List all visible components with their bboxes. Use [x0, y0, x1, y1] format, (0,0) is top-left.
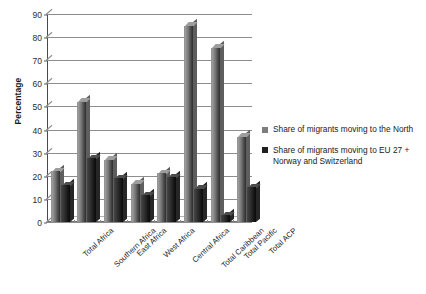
y-axis-title: Percentage [13, 61, 23, 141]
x-axis-tick-mark [180, 220, 181, 223]
bar[interactable] [157, 173, 166, 222]
bar[interactable] [87, 158, 96, 222]
x-axis-tick-mark [47, 220, 48, 223]
bar-front-face [104, 160, 113, 222]
x-axis-tick-mark [100, 220, 101, 223]
x-axis-tick-mark [154, 220, 155, 223]
bar-front-face [211, 48, 220, 222]
bar[interactable] [61, 185, 70, 222]
bar[interactable] [114, 178, 123, 222]
y-axis-tick-label: 60 [33, 79, 42, 89]
bar-chart: Percentage 0102030405060708090 Total Afr… [0, 0, 426, 294]
y-axis-tick-label: 0 [37, 218, 42, 228]
plot-area: 0102030405060708090 [47, 14, 260, 222]
x-axis-tick-mark [74, 220, 75, 223]
bar-front-face [114, 178, 123, 222]
x-axis-label: Total Africa [82, 226, 116, 259]
bar-front-face [221, 215, 230, 222]
bar-front-face [167, 177, 176, 222]
legend-item[interactable]: Share of migrants moving to EU 27 + Norw… [262, 145, 422, 168]
bar-group [180, 14, 207, 222]
bar-front-face [237, 137, 246, 223]
y-axis-tick-label: 80 [33, 33, 42, 43]
bar-group [74, 14, 101, 222]
bar[interactable] [211, 48, 220, 222]
legend-label: Share of migrants moving to EU 27 + Norw… [273, 145, 422, 168]
bar-group [154, 14, 181, 222]
bar-front-face [157, 173, 166, 222]
bar[interactable] [77, 102, 86, 222]
x-axis-tick-mark [127, 220, 128, 223]
y-axis-tick-label: 50 [33, 102, 42, 112]
bar-front-face [51, 171, 60, 222]
bar[interactable] [194, 189, 203, 223]
y-axis-tick-label: 90 [33, 10, 42, 20]
x-axis-labels: Total AfricaSouthern AfricaEast AfricaWe… [47, 226, 260, 288]
bar-front-face [77, 102, 86, 222]
bar-front-face [247, 187, 256, 222]
bar-group [233, 14, 260, 222]
bar[interactable] [247, 187, 256, 222]
y-axis-tick-label: 70 [33, 56, 42, 66]
bar-group [100, 14, 127, 222]
bar-front-face [131, 184, 140, 222]
x-axis-tick-mark [207, 220, 208, 223]
bar[interactable] [237, 137, 246, 223]
bar-group [47, 14, 74, 222]
chart-legend: Share of migrants moving to the NorthSha… [262, 124, 422, 177]
y-axis-tick-label: 10 [33, 195, 42, 205]
bar-group [207, 14, 234, 222]
bar-front-face [194, 189, 203, 223]
bar[interactable] [104, 160, 113, 222]
bar-front-face [61, 185, 70, 222]
bar-front-face [184, 26, 193, 222]
bar[interactable] [51, 171, 60, 222]
bar-group [127, 14, 154, 222]
bar-front-face [141, 195, 150, 222]
legend-label: Share of migrants moving to the North [273, 124, 413, 136]
y-axis-tick-label: 40 [33, 126, 42, 136]
y-axis-tick-label: 30 [33, 149, 42, 159]
bar-groups [47, 14, 260, 222]
y-axis-tick-label: 20 [33, 172, 42, 182]
bar[interactable] [141, 195, 150, 222]
legend-swatch-icon [262, 127, 268, 133]
bar[interactable] [184, 26, 193, 222]
bar-side-face [220, 41, 224, 222]
legend-item[interactable]: Share of migrants moving to the North [262, 124, 422, 136]
bar[interactable] [221, 215, 230, 222]
x-axis-tick-mark [233, 220, 234, 223]
bar[interactable] [167, 177, 176, 222]
bar[interactable] [131, 184, 140, 222]
legend-swatch-icon [262, 147, 268, 153]
bar-front-face [87, 158, 96, 222]
